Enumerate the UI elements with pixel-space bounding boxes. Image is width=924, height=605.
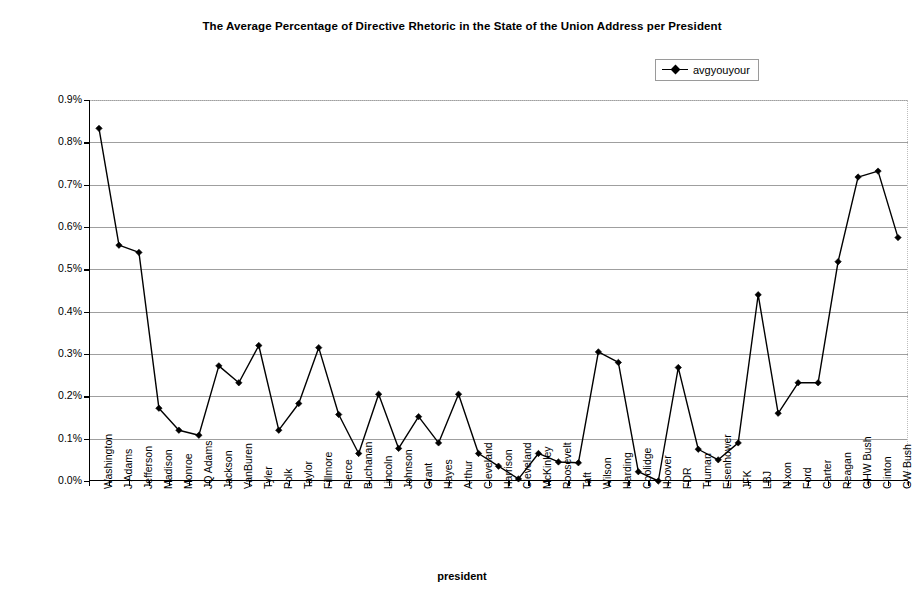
data-point-marker	[116, 242, 122, 248]
data-point-marker	[815, 380, 821, 386]
x-tick-mark	[369, 481, 370, 486]
x-tick-mark	[129, 481, 130, 486]
data-point-marker	[316, 344, 322, 350]
chart-legend: avgyouyour	[655, 59, 759, 81]
x-tick-mark	[209, 481, 210, 486]
x-tick-mark	[748, 481, 749, 486]
x-tick-mark	[289, 481, 290, 486]
y-tick-label: 0.6%	[36, 221, 82, 232]
data-point-marker	[335, 411, 341, 417]
chart-container: The Average Percentage of Directive Rhet…	[0, 0, 924, 605]
legend-diamond-line-marker-icon	[662, 65, 688, 74]
y-tick-label: 0.4%	[36, 306, 82, 317]
x-tick-mark	[109, 481, 110, 486]
legend-entry-label: avgyouyour	[693, 64, 750, 76]
y-tick-label: 0.5%	[36, 263, 82, 274]
y-tick-label: 0.7%	[36, 179, 82, 190]
data-point-marker	[855, 174, 861, 180]
data-point-marker	[375, 391, 381, 397]
data-point-marker	[196, 432, 202, 438]
y-tick-label: 0.9%	[36, 94, 82, 105]
data-point-marker	[695, 446, 701, 452]
x-tick-mark	[908, 481, 909, 486]
series-avgyouyour	[89, 100, 908, 481]
x-tick-mark	[349, 481, 350, 486]
x-tick-mark	[708, 481, 709, 486]
data-point-marker	[895, 234, 901, 240]
series-line	[99, 128, 898, 481]
x-tick-mark	[548, 481, 549, 486]
x-tick-mark	[868, 481, 869, 486]
x-tick-mark	[449, 481, 450, 486]
data-point-marker	[595, 349, 601, 355]
x-tick-mark	[429, 481, 430, 486]
y-tick-mark	[84, 481, 89, 482]
x-tick-mark	[808, 481, 809, 486]
y-tick-label: 0.8%	[36, 136, 82, 147]
x-tick-mark	[169, 481, 170, 486]
chart-title: The Average Percentage of Directive Rhet…	[0, 20, 924, 32]
data-point-marker	[835, 259, 841, 265]
y-tick-label: 0.3%	[36, 348, 82, 359]
y-tick-label: 0.1%	[36, 433, 82, 444]
x-tick-mark	[648, 481, 649, 486]
y-tick-label: 0.2%	[36, 390, 82, 401]
data-point-marker	[755, 292, 761, 298]
x-tick-mark	[389, 481, 390, 486]
x-tick-mark	[189, 481, 190, 486]
x-tick-mark	[728, 481, 729, 486]
x-tick-mark	[828, 481, 829, 486]
x-tick-mark	[888, 481, 889, 486]
x-tick-mark	[469, 481, 470, 486]
data-point-marker	[455, 391, 461, 397]
x-tick-mark	[768, 481, 769, 486]
data-point-marker	[875, 168, 881, 174]
x-tick-mark	[409, 481, 410, 486]
x-tick-mark	[508, 481, 509, 486]
data-point-marker	[555, 459, 561, 465]
x-tick-mark	[489, 481, 490, 486]
data-point-marker	[635, 468, 641, 474]
x-tick-mark	[568, 481, 569, 486]
data-point-marker	[96, 125, 102, 131]
x-tick-mark	[528, 481, 529, 486]
x-tick-mark	[89, 481, 90, 486]
x-tick-mark	[149, 481, 150, 486]
x-axis-title: president	[0, 570, 924, 582]
y-tick-label: 0.0%	[36, 475, 82, 486]
x-tick-mark	[848, 481, 849, 486]
data-point-marker	[395, 445, 401, 451]
data-point-marker	[615, 359, 621, 365]
x-tick-mark	[688, 481, 689, 486]
x-tick-mark	[249, 481, 250, 486]
x-tick-mark	[628, 481, 629, 486]
x-tick-mark	[608, 481, 609, 486]
x-tick-mark	[269, 481, 270, 486]
data-point-marker	[655, 478, 661, 484]
data-point-marker	[136, 249, 142, 255]
x-tick-mark	[329, 481, 330, 486]
data-point-marker	[575, 460, 581, 466]
data-point-marker	[355, 450, 361, 456]
data-point-marker	[256, 342, 262, 348]
x-tick-mark	[788, 481, 789, 486]
x-tick-mark	[668, 481, 669, 486]
x-tick-mark	[588, 481, 589, 486]
x-tick-mark	[309, 481, 310, 486]
x-tick-mark	[229, 481, 230, 486]
data-point-marker	[675, 364, 681, 370]
